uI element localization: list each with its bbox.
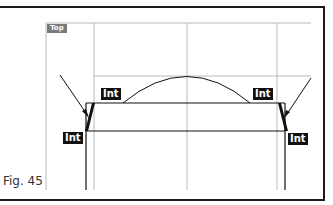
snap-tag-int-bottom-left: Int (63, 132, 83, 144)
figure-caption: Fig. 45 (3, 174, 43, 188)
arc-curve (123, 77, 250, 104)
snap-tag-int-top-right: Int (253, 88, 273, 100)
viewport-label-top: Top (47, 24, 67, 33)
right-pointer-arrow (284, 78, 311, 118)
snap-tag-int-bottom-right: Int (288, 133, 308, 145)
snap-tag-int-top-left: Int (101, 88, 121, 100)
right-wedge-edge (278, 103, 288, 131)
left-pointer-arrow (60, 75, 89, 118)
rectangle-outline (86, 103, 285, 190)
